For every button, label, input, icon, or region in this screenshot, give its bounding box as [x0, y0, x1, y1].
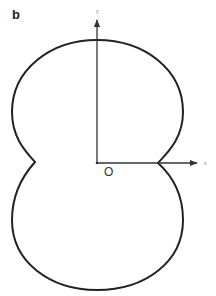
y-axis-label: y	[96, 8, 99, 14]
origin-label: O	[104, 165, 113, 179]
x-axis-label: x	[204, 160, 207, 166]
diagram-canvas	[0, 0, 216, 296]
origin-point	[96, 162, 99, 165]
